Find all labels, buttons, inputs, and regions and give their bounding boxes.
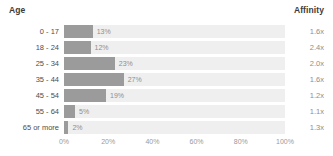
- chart-row: 25 - 3423%2.0x: [0, 56, 333, 71]
- chart-row: 18 - 2412%2.4x: [0, 40, 333, 55]
- axis-tick-label: 40%: [145, 138, 159, 145]
- age-affinity-chart: Age Affinity 0 - 1713%1.6x18 - 2412%2.4x…: [0, 0, 333, 156]
- chart-header: Age Affinity: [0, 0, 333, 22]
- chart-rows: 0 - 1713%1.6x18 - 2412%2.4x25 - 3423%2.0…: [0, 24, 333, 136]
- bar[interactable]: [64, 25, 93, 38]
- bar[interactable]: [64, 73, 124, 86]
- row-category-label: 35 - 44: [0, 72, 59, 87]
- row-category-label: 25 - 34: [0, 56, 59, 71]
- bar[interactable]: [64, 105, 75, 118]
- affinity-value: 1.6x: [310, 24, 324, 39]
- affinity-value: 1.1x: [310, 104, 324, 119]
- bar[interactable]: [64, 57, 115, 70]
- affinity-value: 1.2x: [310, 88, 324, 103]
- bar-value-label: 23%: [119, 57, 133, 70]
- bar-value-label: 27%: [128, 73, 142, 86]
- affinity-value: 2.0x: [310, 56, 324, 71]
- bar-track: 5%: [64, 105, 285, 118]
- chart-row: 0 - 1713%1.6x: [0, 24, 333, 39]
- axis-tick-label: 20%: [101, 138, 115, 145]
- row-category-label: 55 - 64: [0, 104, 59, 119]
- bar-track: 23%: [64, 57, 285, 70]
- bar-track: 12%: [64, 41, 285, 54]
- axis-tick-label: 0%: [59, 138, 69, 145]
- column-header-age: Age: [9, 5, 25, 15]
- bar-track: 27%: [64, 73, 285, 86]
- chart-row: 35 - 4427%1.6x: [0, 72, 333, 87]
- bar[interactable]: [64, 89, 106, 102]
- axis-tick-label: 60%: [190, 138, 204, 145]
- bar[interactable]: [64, 41, 91, 54]
- chart-row: 65 or more2%1.3x: [0, 120, 333, 135]
- bar-value-label: 2%: [72, 121, 82, 134]
- affinity-value: 2.4x: [310, 40, 324, 55]
- bar-track: 13%: [64, 25, 285, 38]
- axis-tick-label: 100%: [276, 138, 294, 145]
- chart-row: 55 - 645%1.1x: [0, 104, 333, 119]
- axis-tick-label: 80%: [234, 138, 248, 145]
- bar-value-label: 19%: [110, 89, 124, 102]
- row-category-label: 65 or more: [0, 120, 59, 135]
- bar-value-label: 13%: [97, 25, 111, 38]
- affinity-value: 1.3x: [310, 120, 324, 135]
- bar-value-label: 12%: [95, 41, 109, 54]
- x-axis: 0%20%40%60%80%100%: [64, 138, 285, 152]
- row-category-label: 45 - 54: [0, 88, 59, 103]
- affinity-value: 1.6x: [310, 72, 324, 87]
- bar-track: 19%: [64, 89, 285, 102]
- column-header-affinity: Affinity: [294, 5, 324, 15]
- row-category-label: 18 - 24: [0, 40, 59, 55]
- chart-row: 45 - 5419%1.2x: [0, 88, 333, 103]
- row-category-label: 0 - 17: [0, 24, 59, 39]
- bar-value-label: 5%: [79, 105, 89, 118]
- bar[interactable]: [64, 121, 68, 134]
- bar-track: 2%: [64, 121, 285, 134]
